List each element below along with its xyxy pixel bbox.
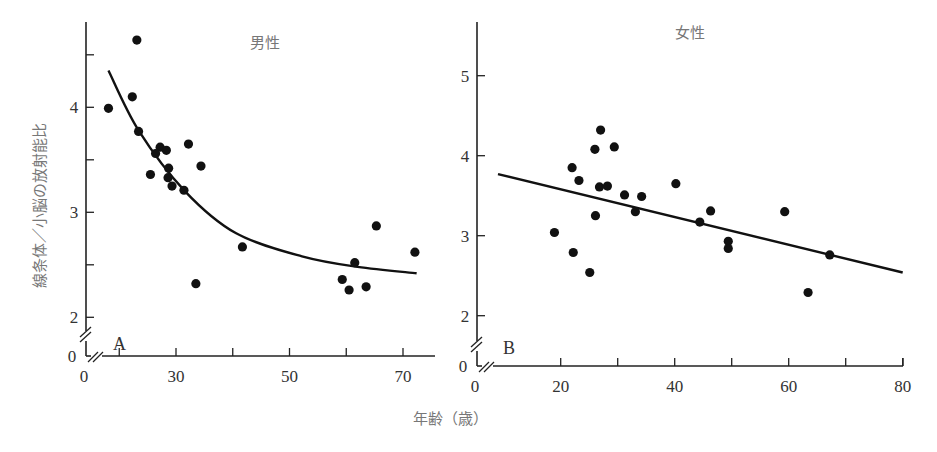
x-tick-label: 20 (552, 377, 569, 396)
data-point (585, 268, 594, 277)
data-point (146, 170, 155, 179)
panel-male: 00305070234男性A (68, 22, 435, 386)
y-origin-label: 0 (459, 357, 468, 376)
y-origin-label: 0 (68, 347, 77, 366)
panel-female: 00204060802345女性B (459, 22, 911, 396)
data-point (706, 206, 715, 215)
data-point (196, 162, 205, 171)
data-point (695, 218, 704, 227)
x-axis-break-mark (479, 362, 489, 372)
y-tick-label: 4 (70, 98, 79, 117)
x-tick-label: 50 (281, 367, 298, 386)
y-axis-break-mark (80, 332, 91, 342)
data-point (724, 244, 733, 253)
data-point (338, 275, 347, 284)
y-tick-label: 2 (70, 308, 79, 327)
data-point (151, 149, 160, 158)
data-point (184, 139, 193, 148)
data-point (569, 248, 578, 257)
data-point (132, 36, 141, 45)
x-tick-label: 40 (666, 377, 683, 396)
y-tick-label: 3 (70, 203, 79, 222)
data-point (550, 228, 559, 237)
data-point (591, 211, 600, 220)
data-point (344, 285, 353, 294)
panel-letter: B (503, 338, 515, 358)
data-point (410, 248, 419, 257)
y-tick-label: 2 (461, 307, 470, 326)
data-point (568, 163, 577, 172)
x-axis-title: 年齢（歳） (413, 410, 488, 428)
data-point (191, 279, 200, 288)
data-point (825, 250, 834, 259)
data-point (372, 221, 381, 230)
data-point (631, 207, 640, 216)
x-axis-break-mark (88, 352, 98, 362)
data-point (179, 186, 188, 195)
data-point (238, 242, 247, 251)
panel-letter: A (113, 334, 126, 354)
data-point (350, 258, 359, 267)
data-point (596, 126, 605, 135)
data-point (590, 145, 599, 154)
y-tick-label: 5 (461, 67, 470, 86)
x-origin-label: 0 (80, 367, 89, 386)
x-origin-label: 0 (471, 377, 480, 396)
data-point (595, 182, 604, 191)
x-tick-label: 60 (780, 377, 797, 396)
data-point (104, 104, 113, 113)
data-point (162, 146, 171, 155)
data-point (163, 173, 172, 182)
fit-curve (108, 71, 416, 274)
x-axis-break-mark (93, 352, 103, 362)
data-point (610, 142, 619, 151)
data-point (574, 176, 583, 185)
data-point (603, 182, 612, 191)
data-point (671, 179, 680, 188)
x-axis-break-mark (484, 362, 494, 372)
x-tick-label: 80 (894, 377, 911, 396)
y-tick-label: 3 (461, 227, 470, 246)
y-axis-title: 線条体／小脳の放射能比 (31, 123, 49, 288)
data-point (164, 164, 173, 173)
y-tick-label: 4 (461, 147, 470, 166)
x-tick-label: 70 (395, 367, 412, 386)
data-point (637, 192, 646, 201)
data-point (128, 92, 137, 101)
data-point (803, 288, 812, 297)
figure: 00305070234男性A 00204060802345女性B 線条体／小脳の… (0, 0, 937, 452)
y-axis-break-mark (471, 342, 482, 352)
data-point (134, 127, 143, 136)
panel-title: 男性 (250, 34, 280, 52)
data-point (167, 181, 176, 190)
panel-title: 女性 (675, 24, 705, 42)
data-point (780, 207, 789, 216)
data-point (620, 190, 629, 199)
data-point (362, 282, 371, 291)
x-tick-label: 30 (168, 367, 185, 386)
